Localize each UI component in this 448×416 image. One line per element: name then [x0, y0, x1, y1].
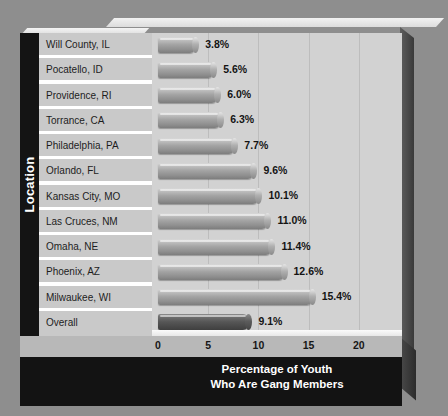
- bar-value-label: 15.4%: [322, 290, 352, 302]
- bar-end-cap: [250, 163, 257, 179]
- bar-body: [158, 37, 196, 53]
- x-axis-tick-label: 20: [353, 339, 365, 351]
- category-label: Milwaukee, WI: [39, 286, 152, 308]
- chart-right-side-face: [400, 27, 414, 389]
- bar-end-cap: [255, 188, 262, 204]
- category-label: Torrance, CA: [39, 109, 152, 131]
- bar: [158, 314, 249, 330]
- chart-top-bevel: [106, 18, 444, 27]
- bar-end-cap: [281, 264, 288, 280]
- x-axis-title: Percentage of YouthWho Are Gang Members: [152, 362, 402, 392]
- bar-highlight: [160, 164, 251, 166]
- bar-body: [158, 314, 249, 330]
- bar-value-label: 6.3%: [230, 113, 254, 125]
- bar-value-label: 3.8%: [205, 38, 229, 50]
- gridline: [359, 33, 360, 336]
- y-axis-band: [20, 33, 39, 336]
- x-axis-title-line: Who Are Gang Members: [152, 377, 402, 392]
- bar: [158, 289, 313, 305]
- category-label: Las Cruces, NM: [39, 210, 152, 232]
- category-label: Philadelphia, PA: [39, 134, 152, 156]
- bar-highlight: [160, 265, 282, 267]
- bar-highlight: [160, 63, 211, 65]
- bar-body: [158, 62, 214, 78]
- bar-body: [158, 188, 259, 204]
- plot-area: 3.8%5.6%6.0%6.3%7.7%9.6%10.1%11.0%11.4%1…: [152, 33, 402, 336]
- bar-highlight: [160, 315, 246, 317]
- bar-highlight: [160, 290, 310, 292]
- bar-body: [158, 264, 285, 280]
- category-label: Pocatello, ID: [39, 58, 152, 80]
- category-label: Omaha, NE: [39, 235, 152, 257]
- category-label: Orlando, FL: [39, 159, 152, 181]
- bar-end-cap: [245, 314, 252, 330]
- bar-value-label: 12.6%: [294, 265, 324, 277]
- bar-value-label: 10.1%: [268, 189, 298, 201]
- bar-end-cap: [192, 37, 199, 53]
- x-axis-title-line: Percentage of Youth: [152, 362, 402, 377]
- bar-end-cap: [268, 239, 275, 255]
- bar: [158, 213, 268, 229]
- category-label: Phoenix, AZ: [39, 260, 152, 282]
- bar-value-label: 6.0%: [227, 88, 251, 100]
- bar: [158, 138, 235, 154]
- bar: [158, 37, 196, 53]
- bar-highlight: [160, 189, 256, 191]
- bar-body: [158, 138, 235, 154]
- x-axis-tick-label: 0: [155, 339, 161, 351]
- bar-end-cap: [264, 213, 271, 229]
- bar-end-cap: [217, 112, 224, 128]
- bar: [158, 188, 259, 204]
- category-label: Will County, IL: [39, 33, 152, 55]
- bar-end-cap: [309, 289, 316, 305]
- bar: [158, 62, 214, 78]
- bar-body: [158, 112, 221, 128]
- bar-body: [158, 87, 218, 103]
- bar-body: [158, 289, 313, 305]
- bar: [158, 112, 221, 128]
- bar: [158, 264, 285, 280]
- bar-highlight: [160, 88, 215, 90]
- bar-highlight: [160, 38, 193, 40]
- category-label: Providence, RI: [39, 84, 152, 106]
- bar-value-label: 7.7%: [244, 139, 268, 151]
- bar-body: [158, 163, 254, 179]
- bar-body: [158, 239, 272, 255]
- bar-highlight: [160, 113, 218, 115]
- bar-highlight: [160, 139, 232, 141]
- bar: [158, 87, 218, 103]
- bar: [158, 239, 272, 255]
- bar-value-label: 5.6%: [223, 63, 247, 75]
- bar-value-label: 11.0%: [277, 214, 306, 226]
- bar-end-cap: [231, 138, 238, 154]
- chart-figure: Location Will County, ILPocatello, IDPro…: [0, 0, 448, 416]
- bar: [158, 163, 254, 179]
- category-label-column: Will County, ILPocatello, IDProvidence, …: [39, 33, 152, 336]
- bar-end-cap: [214, 87, 221, 103]
- bar-end-cap: [210, 62, 217, 78]
- x-axis-tick-label: 5: [205, 339, 211, 351]
- category-label: Kansas City, MO: [39, 185, 152, 207]
- x-axis-tick-label: 15: [303, 339, 315, 351]
- bar-highlight: [160, 214, 265, 216]
- bar-body: [158, 213, 268, 229]
- x-axis-tick-label: 10: [253, 339, 265, 351]
- bar-value-label: 11.4%: [281, 240, 310, 252]
- bar-value-label: 9.1%: [258, 315, 282, 327]
- bar-highlight: [160, 240, 269, 242]
- bar-value-label: 9.6%: [263, 164, 287, 176]
